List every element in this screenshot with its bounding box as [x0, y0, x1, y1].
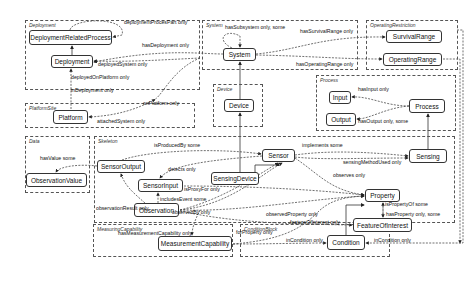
node-process[interactable]: Process: [409, 99, 445, 113]
edge-label-observation-result: observationResult only: [96, 205, 148, 211]
edge-label-has-property: hasProperty only, some: [386, 211, 440, 217]
group-label: Data: [29, 138, 40, 144]
edge-label-in-deployment: inDeployment only: [71, 87, 114, 93]
edge-label-has-measurement-capability: hasMeasurementCapability only: [118, 230, 192, 236]
node-device[interactable]: Device: [224, 99, 254, 112]
node-output[interactable]: Output: [326, 113, 356, 126]
edge-label-has-output: hasOutput only, some: [358, 118, 408, 124]
node-platform[interactable]: Platform: [53, 110, 88, 124]
edge-label-detects: detects only: [168, 166, 196, 172]
node-system[interactable]: System: [223, 48, 256, 61]
edge-label-feature-of-interest: featureOfInterest only: [290, 219, 340, 225]
node-observation-value[interactable]: ObservationValue: [26, 173, 87, 187]
group-label: System: [206, 22, 223, 28]
group-label: Process: [320, 77, 338, 83]
edge-label-has-value: hasValue some: [40, 155, 75, 161]
node-condition[interactable]: Condition: [327, 235, 365, 250]
edge-label-observed-by: observedBy only: [172, 209, 210, 215]
node-deployment-related-process[interactable]: DeploymentRelatedProcess: [29, 30, 112, 45]
edge-label-has-deployment: hasDeployment only: [142, 42, 189, 48]
edge-label-deployed-system: deployedSystem only: [98, 61, 147, 67]
node-sensor-output[interactable]: SensorOutput: [97, 160, 145, 173]
edge-label-includes-event: includesEvent some: [160, 196, 206, 202]
edge-label-in-condition-left: inCondition only: [286, 237, 323, 243]
node-survival-range[interactable]: SurvivalRange: [386, 30, 442, 43]
edge-label-is-proxy-for: isProxyFor only: [184, 186, 220, 192]
edge-label-has-subsystem: hasSubsystem only, some: [225, 24, 285, 30]
group-label: Skeleton: [98, 138, 117, 144]
node-sensing-device[interactable]: SensingDevice: [211, 172, 259, 185]
edge-label-implements: implements some: [302, 142, 343, 148]
edge-label-observes: observes only: [333, 172, 365, 178]
edge-label-deployment-proces-part: deploymentProcesPart only: [124, 19, 187, 25]
edge-label-deployed-on-platform: deployedOnPlatform only: [71, 74, 129, 80]
edge-label-on-platform: onPlatform only: [143, 100, 179, 106]
edge-label-has-operating-range: hasOperatingRange only: [296, 61, 353, 67]
group-platform-site: PlatformSite: [25, 103, 195, 128]
edge-label-is-produced-by: isProducedBy some: [154, 142, 200, 148]
node-feature-of-interest[interactable]: FeatureOfInterest: [353, 218, 412, 232]
group-label: PlatformSite: [29, 105, 56, 111]
node-sensing[interactable]: Sensing: [409, 149, 447, 163]
node-measurement-capability[interactable]: MeasurementCapability: [158, 236, 232, 251]
group-label: OperatingRestriction: [370, 22, 416, 28]
node-operating-range[interactable]: OperatingRange: [383, 53, 442, 66]
edge-label-has-survival-range: hasSurvivalRange only: [300, 28, 353, 34]
edge-label-in-condition-right: inCondition only: [374, 237, 411, 243]
edge-label-sensing-method-used: sensingMethodUsed only: [343, 159, 401, 165]
group-label: Deployment: [29, 22, 56, 28]
edge-label-attached-system: attachedSystem only: [97, 118, 145, 124]
edge-label-observed-property: observedProperty only: [266, 211, 318, 217]
node-input[interactable]: Input: [329, 91, 351, 104]
node-sensor[interactable]: Sensor: [262, 149, 295, 162]
node-sensor-input[interactable]: SensorInput: [138, 179, 183, 192]
group-label: Device: [217, 86, 232, 92]
node-deployment[interactable]: Deployment: [51, 55, 93, 68]
edge-label-for-property: forProperty only: [236, 229, 273, 235]
edge-label-has-input: hasInput only: [358, 86, 389, 92]
edge-label-is-property-of: isPropertyOf some: [385, 201, 428, 207]
ontology-diagram: Deployment System OperatingRestriction P…: [0, 0, 471, 294]
